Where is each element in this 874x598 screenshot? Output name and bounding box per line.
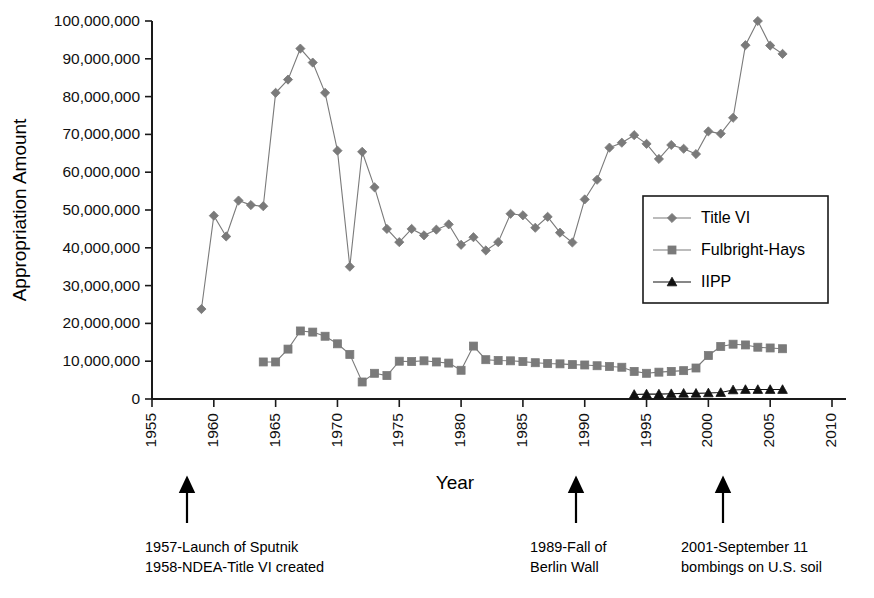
annotation-text-line: 1957-Launch of Sputnik xyxy=(145,539,299,555)
marker-diamond xyxy=(728,113,737,122)
marker-square xyxy=(408,358,416,366)
marker-square xyxy=(593,362,601,370)
marker-square xyxy=(321,332,329,340)
y-tick-label: 70,000,000 xyxy=(62,125,140,142)
marker-diamond xyxy=(753,16,762,25)
marker-diamond xyxy=(716,129,725,138)
y-tick-label: 40,000,000 xyxy=(62,239,140,256)
marker-square xyxy=(395,357,403,365)
marker-diamond xyxy=(605,143,614,152)
marker-square xyxy=(272,358,280,366)
marker-square xyxy=(680,367,688,375)
chart-annotations: 1957-Launch of Sputnik1958-NDEA-Title VI… xyxy=(145,478,822,575)
marker-square xyxy=(544,359,552,367)
y-tick-label: 50,000,000 xyxy=(62,201,140,218)
marker-square xyxy=(383,372,391,380)
y-tick-label: 80,000,000 xyxy=(62,88,140,105)
legend-label: Fulbright-Hays xyxy=(701,241,805,258)
y-tick-label: 10,000,000 xyxy=(62,352,140,369)
marker-square xyxy=(259,358,267,366)
annotation-text-line: 1989-Fall of xyxy=(530,539,608,555)
marker-square xyxy=(692,364,700,372)
marker-square xyxy=(420,357,428,365)
marker-square xyxy=(581,361,589,369)
y-tick-label: 0 xyxy=(131,390,140,407)
marker-square xyxy=(296,327,304,335)
marker-diamond xyxy=(506,209,515,218)
y-axis: 010,000,00020,000,00030,000,00040,000,00… xyxy=(54,12,152,407)
annotation-arrow-head xyxy=(717,478,730,492)
marker-diamond xyxy=(222,232,231,241)
marker-square xyxy=(717,342,725,350)
x-tick-label: 1975 xyxy=(389,413,406,447)
marker-square xyxy=(284,345,292,353)
x-tick-label: 1995 xyxy=(637,413,654,447)
annotation-september-11: 2001-September 11bombings on U.S. soil xyxy=(681,478,822,575)
marker-diamond xyxy=(209,211,218,220)
marker-square xyxy=(605,362,613,370)
marker-square xyxy=(704,352,712,360)
annotation-arrow-head xyxy=(181,478,194,492)
marker-square xyxy=(482,356,490,364)
y-axis-title: Appropriation Amount xyxy=(9,118,30,301)
x-tick-label: 1980 xyxy=(451,413,468,448)
y-tick-label: 30,000,000 xyxy=(62,277,140,294)
annotation-sputnik: 1957-Launch of Sputnik1958-NDEA-Title VI… xyxy=(145,478,324,575)
x-axis-title: Year xyxy=(436,472,475,493)
marker-square xyxy=(741,341,749,349)
marker-diamond xyxy=(370,183,379,192)
appropriation-chart: 010,000,00020,000,00030,000,00040,000,00… xyxy=(0,0,874,598)
legend-label: Title VI xyxy=(701,209,750,226)
x-tick-label: 2005 xyxy=(760,413,777,447)
marker-square xyxy=(729,340,737,348)
marker-diamond xyxy=(234,196,243,205)
marker-square xyxy=(754,343,762,351)
marker-diamond xyxy=(679,144,688,153)
marker-square xyxy=(630,367,638,375)
marker-square xyxy=(568,361,576,369)
marker-diamond xyxy=(320,88,329,97)
marker-square xyxy=(309,328,317,336)
y-tick-label: 60,000,000 xyxy=(62,163,140,180)
marker-diamond xyxy=(259,202,268,211)
marker-diamond xyxy=(345,262,354,271)
marker-square xyxy=(494,356,502,364)
legend-label: IIPP xyxy=(701,273,731,290)
marker-square xyxy=(531,359,539,367)
x-tick-label: 1965 xyxy=(266,413,283,447)
marker-square xyxy=(333,340,341,348)
x-tick-label: 1955 xyxy=(142,413,159,447)
marker-diamond xyxy=(197,304,206,313)
marker-square xyxy=(371,369,379,377)
marker-diamond xyxy=(358,147,367,156)
x-tick-label: 1990 xyxy=(575,413,592,448)
marker-diamond xyxy=(444,220,453,229)
marker-square xyxy=(445,359,453,367)
annotation-text-line: Berlin Wall xyxy=(530,559,599,575)
x-tick-label: 1970 xyxy=(328,413,345,448)
marker-diamond xyxy=(580,195,589,204)
marker-square xyxy=(457,366,465,374)
marker-square xyxy=(655,368,663,376)
marker-diamond xyxy=(333,146,342,155)
marker-square xyxy=(432,358,440,366)
marker-diamond xyxy=(592,175,601,184)
y-tick-label: 100,000,000 xyxy=(54,12,141,29)
marker-square xyxy=(643,369,651,377)
marker-diamond xyxy=(691,149,700,158)
annotation-berlin-wall: 1989-Fall ofBerlin Wall xyxy=(530,478,608,575)
y-tick-label: 20,000,000 xyxy=(62,314,140,331)
annotation-text-line: bombings on U.S. soil xyxy=(681,559,822,575)
marker-square xyxy=(519,358,527,366)
annotation-arrow-head xyxy=(570,478,583,492)
marker-diamond xyxy=(630,131,639,140)
chart-legend: Title VIFulbright-HaysIIPP xyxy=(643,196,828,303)
marker-diamond xyxy=(246,200,255,209)
marker-diamond xyxy=(419,231,428,240)
marker-diamond xyxy=(617,138,626,147)
x-tick-label: 1960 xyxy=(204,413,221,448)
marker-square xyxy=(779,345,787,353)
annotation-text-line: 2001-September 11 xyxy=(681,539,808,555)
marker-diamond xyxy=(456,240,465,249)
marker-diamond xyxy=(494,238,503,247)
